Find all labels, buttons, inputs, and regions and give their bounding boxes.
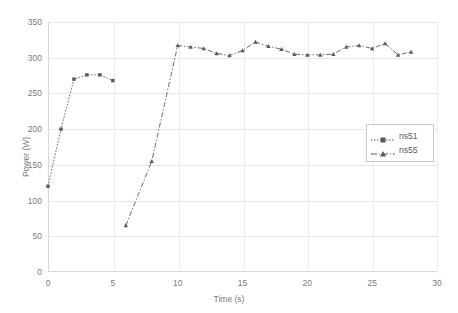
y-axis-tick-label: 350	[8, 18, 42, 27]
x-axis-tick-label: 20	[292, 279, 322, 288]
legend-item-ns51: ns51	[370, 129, 430, 143]
y-axis-title: Power (W)	[21, 136, 31, 176]
y-axis-tick-label: 200	[8, 125, 42, 134]
legend-swatch-ns51-icon	[370, 131, 396, 141]
gridline-vertical	[114, 22, 115, 272]
legend-label-ns55: ns55	[399, 146, 417, 155]
y-axis-tick-label: 100	[8, 197, 42, 206]
legend-label-ns51: ns51	[399, 132, 417, 141]
y-axis-tick-label: 300	[8, 54, 42, 63]
x-axis-title: Time (s)	[0, 294, 458, 304]
x-axis-tick-label: 25	[357, 279, 387, 288]
gridline-vertical	[244, 22, 245, 272]
legend-swatch-ns55-icon	[370, 145, 396, 155]
y-axis-tick-label: 0	[8, 268, 42, 277]
gridline-vertical	[437, 22, 438, 272]
gridline-vertical	[179, 22, 180, 272]
y-axis-tick-label: 50	[8, 232, 42, 241]
x-axis-tick-label: 5	[98, 279, 128, 288]
x-axis-tick-label: 15	[228, 279, 258, 288]
legend-item-ns55: ns55	[370, 143, 430, 157]
y-axis-tick-label: 250	[8, 89, 42, 98]
x-axis-tick-label: 0	[33, 279, 63, 288]
x-axis-tick-label: 30	[422, 279, 452, 288]
chart-container: 350 300 250 200 150 100 50 0 0 5 10 15 2…	[0, 0, 458, 313]
x-axis-tick-label: 10	[163, 279, 193, 288]
legend: ns51 ns55	[366, 124, 434, 162]
gridline-vertical	[308, 22, 309, 272]
